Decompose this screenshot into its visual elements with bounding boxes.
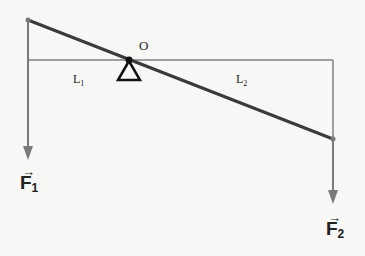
vector-arrow-icon: → [328, 210, 341, 225]
beam-end-right [331, 137, 336, 142]
pivot-label: O [139, 38, 148, 54]
vector-arrow-icon: → [22, 164, 35, 179]
beam-end-left [26, 18, 31, 23]
force-1-label: →F1 [20, 172, 38, 195]
force-2-arrowhead [328, 190, 338, 204]
length-2-label: L2 [236, 72, 247, 88]
length-1-label: L1 [73, 72, 84, 88]
force-2-label: →F2 [326, 218, 344, 241]
lever-diagram [0, 0, 365, 256]
force-1-arrowhead [23, 146, 33, 160]
pivot-point [126, 57, 133, 64]
